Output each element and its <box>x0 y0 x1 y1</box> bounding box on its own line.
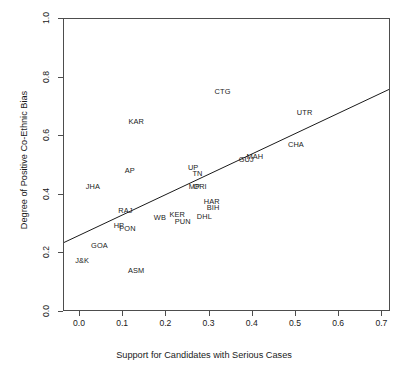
y-tick-mark <box>58 311 63 312</box>
x-tick-label: 0.0 <box>73 318 85 328</box>
y-tick-label: 0.0 <box>41 305 51 317</box>
scatter-plot-figure: J&KGOAJHAHPPONRAJAPASMKARWBKERPUNUPTNMPO… <box>0 0 408 378</box>
x-tick-label: 0.6 <box>332 318 344 328</box>
y-tick-mark <box>58 135 63 136</box>
x-tick-label: 0.1 <box>116 318 128 328</box>
data-point-label: JHA <box>86 184 100 191</box>
data-point-label: KAR <box>128 118 144 125</box>
x-tick-label: 0.3 <box>203 318 215 328</box>
x-tick-mark <box>209 311 210 316</box>
x-tick-mark <box>252 311 253 316</box>
data-point-label: CTG <box>215 89 231 96</box>
data-point-label: DHL <box>197 213 212 220</box>
data-point-label: ASM <box>128 267 144 274</box>
x-tick-label: 0.2 <box>159 318 171 328</box>
y-tick-mark <box>58 194 63 195</box>
data-point-label: RAJ <box>118 207 132 214</box>
data-point-label: WB <box>154 215 166 222</box>
x-tick-label: 0.4 <box>246 318 258 328</box>
x-tick-mark <box>381 311 382 316</box>
data-point-label: CHA <box>288 141 304 148</box>
y-tick-label: 0.4 <box>41 188 51 200</box>
y-tick-label: 0.2 <box>41 246 51 258</box>
data-point-label: UTR <box>297 109 313 116</box>
data-point-label: ORI <box>193 184 206 191</box>
y-axis-title: Degree of Positive Co-Ethnic Bias <box>19 10 29 310</box>
data-point-label: PON <box>119 226 135 233</box>
data-point-label: BIH <box>207 204 220 211</box>
data-point-label: AP <box>125 168 135 175</box>
y-tick-mark <box>58 77 63 78</box>
regression-line <box>64 19 389 310</box>
y-tick-label: 1.0 <box>41 12 51 24</box>
x-tick-mark <box>295 311 296 316</box>
x-tick-mark <box>79 311 80 316</box>
y-tick-label: 0.6 <box>41 129 51 141</box>
y-tick-label: 0.8 <box>41 71 51 83</box>
x-tick-mark <box>338 311 339 316</box>
y-tick-mark <box>58 252 63 253</box>
data-point-label: GOA <box>91 242 108 249</box>
x-axis-title: Support for Candidates with Serious Case… <box>0 350 408 360</box>
plot-frame: J&KGOAJHAHPPONRAJAPASMKARWBKERPUNUPTNMPO… <box>63 18 390 311</box>
x-tick-mark <box>165 311 166 316</box>
x-tick-mark <box>122 311 123 316</box>
x-tick-label: 0.5 <box>289 318 301 328</box>
data-point-label: PUN <box>175 218 191 225</box>
plot-area: J&KGOAJHAHPPONRAJAPASMKARWBKERPUNUPTNMPO… <box>64 19 389 310</box>
data-point-label: MAH <box>247 153 264 160</box>
x-tick-label: 0.7 <box>375 318 387 328</box>
data-point-label: J&K <box>75 257 89 264</box>
y-tick-mark <box>58 18 63 19</box>
data-point-label: TN <box>192 171 202 178</box>
